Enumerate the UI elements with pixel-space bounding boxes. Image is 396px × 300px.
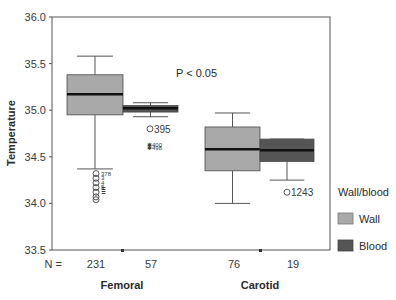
outlier-label: 1243 [291, 187, 314, 198]
legend-title: Wall/blood [338, 186, 389, 198]
box-carotid-blood: 1243 [260, 139, 314, 198]
legend-swatch-wall [338, 213, 353, 224]
y-tick-label: 33.5 [25, 244, 46, 256]
outlier-label: 395 [154, 124, 171, 135]
x-tick-femoral [121, 249, 124, 252]
box-femoral-wall: 378345≣ [67, 56, 123, 203]
outlier-label: ≣ [101, 187, 106, 195]
n-femoral-wall: 231 [87, 258, 105, 270]
y-axis: 36.035.535.034.534.033.5 [25, 11, 52, 256]
category-carotid: Carotid [241, 279, 280, 291]
legend-swatch-blood [338, 240, 353, 251]
legend: Wall/blood Wall Blood [338, 186, 389, 252]
n-label: N = [45, 258, 62, 270]
y-tick-label: 35.5 [25, 58, 46, 70]
y-tick-label: 34.5 [25, 151, 46, 163]
n-carotid-blood: 19 [287, 258, 299, 270]
x-tick-carotid [259, 249, 262, 252]
y-tick-label: 34.0 [25, 197, 46, 209]
outlier-marker [284, 189, 290, 195]
legend-label-blood: Blood [359, 240, 387, 252]
y-axis-label: Temperature [5, 100, 17, 166]
extreme-marker: ✱498 [147, 145, 163, 151]
category-femoral: Femoral [101, 279, 144, 291]
y-tick-label: 36.0 [25, 11, 46, 23]
legend-label-wall: Wall [359, 213, 380, 225]
p-value-annotation: P < 0.05 [176, 67, 217, 79]
n-femoral-blood: 57 [145, 258, 157, 270]
boxplot-chart: 36.035.535.034.534.033.5 Temperature P <… [0, 0, 396, 300]
plot-frame [52, 17, 330, 250]
n-carotid-wall: 76 [228, 258, 240, 270]
y-tick-label: 35.0 [25, 104, 46, 116]
box-carotid-wall [205, 113, 260, 203]
outlier-marker [147, 126, 153, 132]
box-femoral-blood: 395✱400✱498 [123, 103, 178, 152]
